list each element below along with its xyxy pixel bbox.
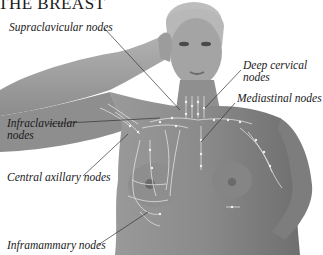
label-mediastinal-nodes: Mediastinal nodes	[237, 92, 322, 104]
label-infraclavicular-line1: Infraclavicular	[7, 117, 77, 129]
label-deep-cervical-line1: Deep cervical	[243, 59, 307, 71]
label-deep-cervical-nodes: Deep cervical nodes	[243, 59, 307, 83]
label-infraclavicular-nodes: Infraclavicular nodes	[7, 117, 77, 141]
label-inframammary-nodes: Inframammary nodes	[7, 239, 106, 251]
label-supraclavicular-nodes: Supraclavicular nodes	[9, 21, 113, 33]
torso	[110, 92, 312, 255]
label-infraclavicular-line2: nodes	[7, 129, 77, 141]
label-deep-cervical-line2: nodes	[243, 71, 307, 83]
head	[158, 2, 224, 86]
label-central-axillary-nodes: Central axillary nodes	[7, 171, 111, 183]
page-title: THE BREAST	[0, 0, 105, 14]
